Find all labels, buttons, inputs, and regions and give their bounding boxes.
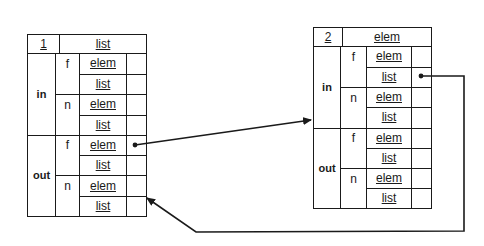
edge-node2-to-node1 (147, 74, 464, 232)
arrow-line (147, 76, 464, 232)
connectors (0, 0, 484, 246)
arrow-line (135, 120, 311, 145)
edge-node1-to-node2 (133, 120, 311, 147)
